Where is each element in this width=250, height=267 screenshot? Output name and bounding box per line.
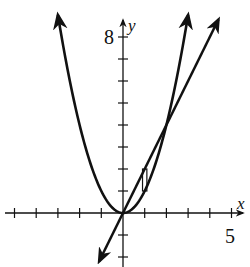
y-axis (118, 20, 128, 267)
line-y-equals-2x (99, 19, 218, 261)
region-between-curves-graph: y 8 x 5 (0, 0, 250, 267)
x-tick-label-5: 5 (225, 225, 235, 247)
x-axis-label: x (236, 194, 245, 213)
y-axis-label: y (126, 16, 136, 35)
y-tick-label-8: 8 (104, 26, 114, 48)
